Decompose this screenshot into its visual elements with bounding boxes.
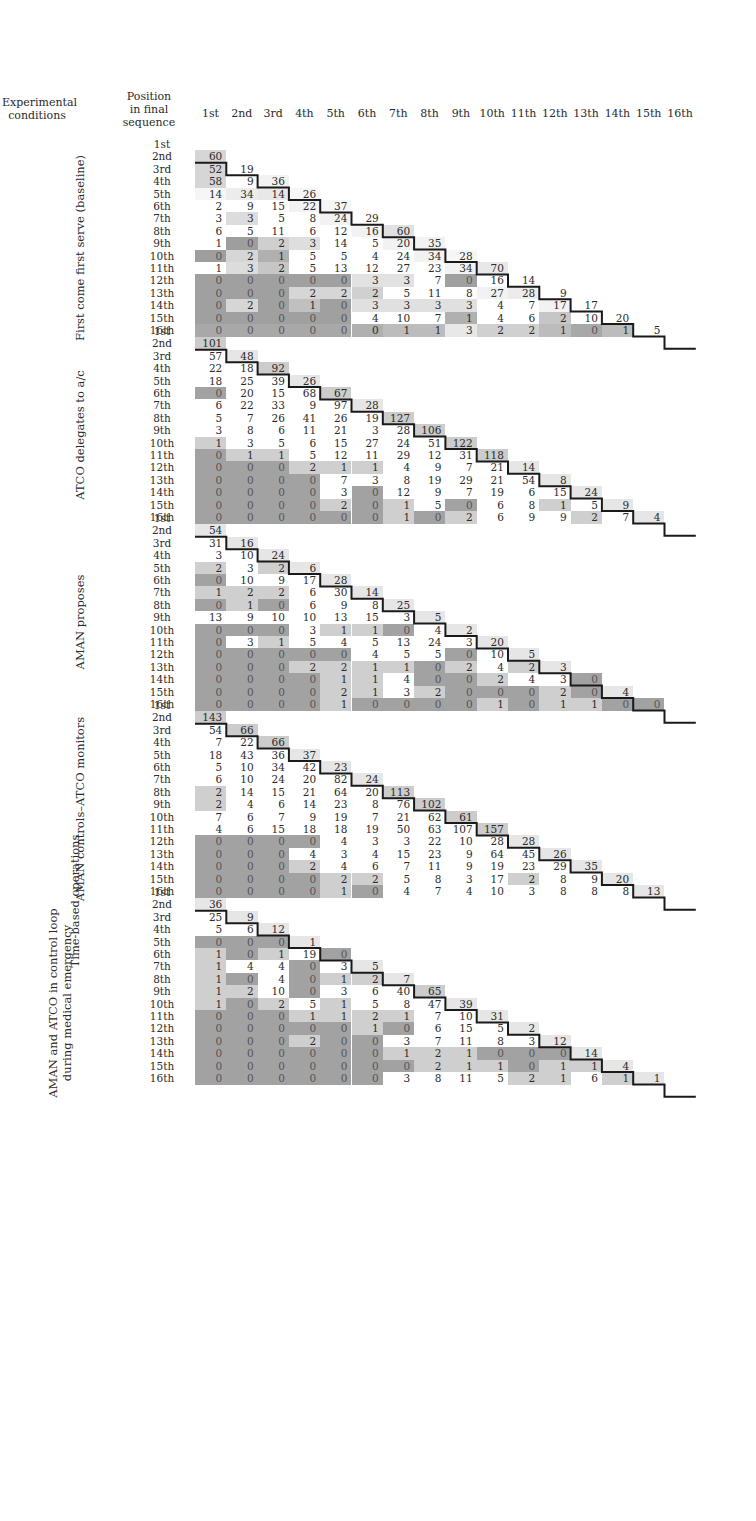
- column-header: 10th: [477, 107, 508, 120]
- column-header: 5th: [320, 107, 351, 120]
- column-header: 1st: [195, 107, 226, 120]
- column-header: 6th: [352, 107, 383, 120]
- header-position-in-final-sequence: Position in final sequence: [120, 90, 178, 129]
- column-header: 7th: [383, 107, 414, 120]
- column-header: 8th: [414, 107, 445, 120]
- column-header: 11th: [508, 107, 539, 120]
- column-header: 12th: [539, 107, 570, 120]
- column-header: 2nd: [226, 107, 257, 120]
- column-header: 13th: [571, 107, 602, 120]
- sequence-heatmap-figure: Experimental conditions Position in fina…: [0, 0, 756, 1521]
- column-header: 4th: [289, 107, 320, 120]
- diagonal-staircase-line: [0, 886, 756, 1106]
- column-header: 14th: [602, 107, 633, 120]
- header-experimental-conditions: Experimental conditions: [2, 96, 72, 122]
- column-header: 15th: [633, 107, 664, 120]
- column-header: 3rd: [258, 107, 289, 120]
- column-header: 16th: [665, 107, 696, 120]
- column-header: 9th: [445, 107, 476, 120]
- group-label-time-based-operations: Time-based operations: [68, 801, 82, 1001]
